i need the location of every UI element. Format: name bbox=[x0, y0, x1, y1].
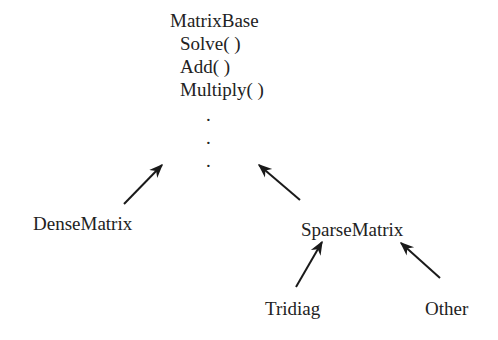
arrow-tridiag-to-sparse bbox=[296, 242, 322, 287]
arrow-other-to-sparse bbox=[401, 243, 440, 278]
arrow-sparse-to-base bbox=[259, 165, 300, 200]
arrow-dense-to-base bbox=[124, 165, 162, 204]
inheritance-arrows bbox=[0, 0, 498, 340]
